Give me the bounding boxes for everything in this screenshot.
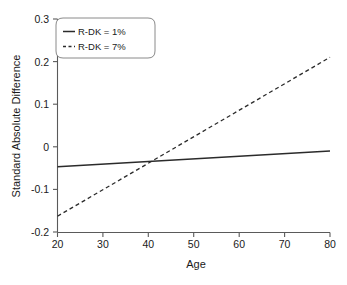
x-axis-title: Age	[186, 258, 206, 270]
chart-container: 0.3 0.2 0.1 0 -0.1 -0.2 Standard Absolut…	[0, 0, 347, 285]
x-tick-label-3: 50	[188, 238, 200, 250]
legend-label-1: R-DK = 7%	[78, 41, 126, 52]
y-axis: 0.3 0.2 0.1 0 -0.1 -0.2 Standard Absolut…	[10, 13, 58, 238]
y-tick-label-5: -0.2	[31, 226, 49, 238]
y-tick-label-3: 0	[43, 141, 49, 153]
x-tick-label-4: 60	[233, 238, 245, 250]
x-tick-label-0: 20	[52, 238, 64, 250]
x-tick-label-6: 80	[324, 238, 336, 250]
x-tick-label-5: 70	[279, 238, 291, 250]
x-tick-label-2: 40	[142, 238, 154, 250]
series-line-dashed	[58, 57, 331, 216]
x-tick-label-1: 30	[97, 238, 109, 250]
data-series-group	[58, 57, 331, 216]
chart-canvas: 0.3 0.2 0.1 0 -0.1 -0.2 Standard Absolut…	[0, 0, 347, 285]
legend-box	[56, 18, 155, 58]
y-axis-title: Standard Absolute Difference	[10, 55, 22, 198]
series-line-solid	[58, 151, 331, 167]
y-tick-label-2: 0.1	[34, 98, 49, 110]
y-tick-label-0: 0.3	[34, 13, 49, 25]
x-axis: 20 30 40 50 60 70 80 Age	[52, 233, 336, 271]
chart-legend[interactable]: R-DK = 1% R-DK = 7%	[56, 18, 155, 58]
legend-label-0: R-DK = 1%	[78, 26, 126, 37]
y-tick-label-4: -0.1	[31, 183, 49, 195]
y-tick-label-1: 0.2	[34, 56, 49, 68]
